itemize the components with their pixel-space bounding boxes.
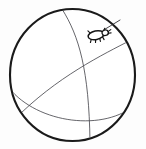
- sphere-illustration: [0, 0, 146, 149]
- tick-mouthpart-icon: [108, 33, 111, 34]
- figure-container: Outline drawing of a sphere with meridia…: [0, 0, 146, 149]
- tick-head-icon: [101, 29, 108, 36]
